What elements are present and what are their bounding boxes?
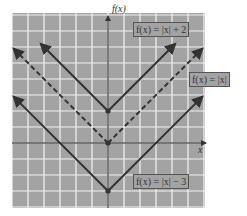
x-axis-label: x — [198, 144, 202, 155]
label-abs: f(x) = |x| — [189, 72, 230, 87]
y-axis-label: f(x) — [112, 3, 126, 14]
vertex-point — [105, 188, 110, 193]
plot-area — [0, 0, 247, 216]
label-abs-minus-3: f(x) = |x| − 3 — [133, 174, 189, 189]
vertex-point — [105, 108, 110, 113]
label-abs-plus-2: f(x) = |x| + 2 — [133, 22, 189, 37]
vertex-point — [105, 140, 110, 145]
